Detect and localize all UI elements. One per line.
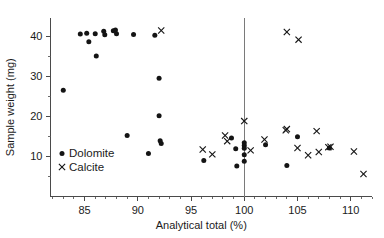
series-calcite <box>158 27 366 177</box>
x-tick-label: 90 <box>132 204 144 216</box>
scatter-plot-figure: 85909510010511010203040 DolomiteCalcite … <box>0 0 384 238</box>
data-point-dolomite <box>152 33 157 38</box>
data-point-dolomite <box>86 39 91 44</box>
data-point-dolomite <box>157 76 162 81</box>
data-point-dolomite <box>242 152 247 157</box>
data-point-calcite <box>360 171 366 177</box>
axis-titles-layer: Analytical total (%)Sample weight (mg) <box>4 58 247 231</box>
data-point-dolomite <box>125 133 130 138</box>
data-point-dolomite <box>157 113 162 118</box>
data-point-calcite <box>305 152 311 158</box>
data-point-calcite <box>351 148 357 154</box>
y-tick-label: 40 <box>30 30 42 42</box>
data-point-calcite <box>209 151 215 157</box>
data-point-dolomite <box>114 31 119 36</box>
data-point-dolomite <box>61 88 66 93</box>
data-point-dolomite <box>234 164 239 169</box>
y-axis-title: Sample weight (mg) <box>4 58 16 156</box>
data-point-calcite <box>284 29 290 35</box>
data-point-calcite <box>261 136 267 142</box>
data-point-calcite <box>224 138 230 144</box>
data-point-calcite <box>314 128 320 134</box>
y-tick-label: 30 <box>30 70 42 82</box>
plot-canvas: 85909510010511010203040 DolomiteCalcite … <box>0 0 384 238</box>
x-axis-title: Analytical total (%) <box>156 219 247 231</box>
data-point-dolomite <box>159 141 164 146</box>
legend-label: Calcite <box>69 161 104 173</box>
data-point-dolomite <box>284 163 289 168</box>
x-tick-label: 95 <box>185 204 197 216</box>
data-point-dolomite <box>146 151 151 156</box>
x-tick-label: 110 <box>342 204 360 216</box>
x-tick-label: 105 <box>288 204 306 216</box>
data-point-dolomite <box>93 31 98 36</box>
y-tick-label: 10 <box>30 150 42 162</box>
data-point-calcite <box>295 37 301 43</box>
legend-item-calcite: Calcite <box>59 161 104 173</box>
legend-layer: DolomiteCalcite <box>59 147 114 173</box>
x-tick-label: 100 <box>235 204 253 216</box>
data-point-dolomite <box>201 158 206 163</box>
data-point-calcite <box>158 27 164 33</box>
ticks-layer <box>46 36 372 201</box>
tick-labels-layer: 85909510010511010203040 <box>30 30 359 215</box>
data-point-calcite <box>248 147 254 153</box>
data-point-dolomite <box>233 146 238 151</box>
data-point-calcite <box>200 146 206 152</box>
data-point-dolomite <box>242 146 247 151</box>
legend-label: Dolomite <box>69 147 114 159</box>
data-point-dolomite <box>263 142 268 147</box>
data-point-dolomite <box>78 32 83 37</box>
data-point-dolomite <box>94 54 99 59</box>
data-point-calcite <box>316 149 322 155</box>
cross-marker <box>59 164 65 170</box>
data-point-dolomite <box>84 31 89 36</box>
data-point-dolomite <box>131 32 136 37</box>
legend-item-dolomite: Dolomite <box>60 147 115 159</box>
y-tick-label: 20 <box>30 110 42 122</box>
data-point-dolomite <box>295 134 300 139</box>
data-point-dolomite <box>102 32 107 37</box>
data-point-calcite <box>294 145 300 151</box>
data-point-calcite <box>222 132 228 138</box>
dot-marker <box>60 151 65 156</box>
x-tick-label: 85 <box>78 204 90 216</box>
data-point-dolomite <box>242 159 247 164</box>
